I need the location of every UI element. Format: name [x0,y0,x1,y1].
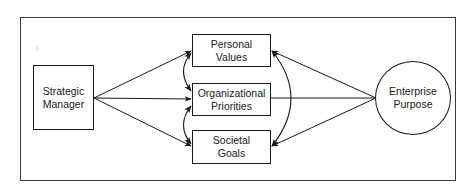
node-label: Purpose [389,98,437,111]
edge-ep-to-pv [272,51,376,98]
node-societal-goals: Societal Goals [192,130,271,164]
node-label: Strategic [43,85,84,98]
edge-sm-to-sg [94,98,191,146]
node-personal-values: Personal Values [192,34,271,67]
node-label: Manager [43,98,84,111]
node-organizational-priorities: Organizational Priorities [192,83,271,116]
node-label: Values [211,51,252,64]
edge-ep-to-sg [272,98,376,146]
node-strategic-manager: Strategic Manager [33,65,94,130]
edge-pv-op-curve [184,53,192,91]
node-label: Priorities [198,100,266,113]
diagram-canvas: ı Strategic Manager Personal Values [0,0,473,192]
node-label: Enterprise [389,85,437,98]
edge-sm-to-pv [94,51,191,98]
node-enterprise-purpose: Enterprise Purpose [375,61,451,135]
node-label: Societal [213,134,250,147]
edge-op-sg-curve [184,106,192,144]
edge-sm-to-op [94,98,191,99]
node-label: Organizational [198,87,266,100]
node-label: Personal [211,38,252,51]
node-label: Goals [213,147,250,160]
